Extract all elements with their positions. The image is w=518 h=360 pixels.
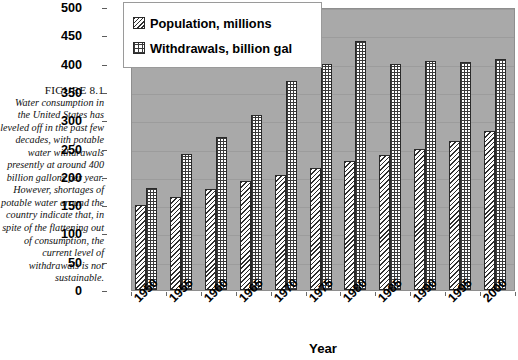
bar-withdrawals[interactable] — [460, 62, 471, 290]
x-axis-tick-mark — [445, 292, 446, 296]
y-axis-tick-label: 150 — [36, 200, 82, 213]
y-axis-tick-label: 200 — [36, 172, 82, 185]
x-axis-tick-mark — [306, 292, 307, 296]
y-axis-tick-mark — [102, 8, 107, 9]
bar-group — [446, 9, 481, 290]
y-axis-tick-label: 100 — [36, 228, 82, 241]
bar-withdrawals[interactable] — [146, 188, 157, 290]
y-axis-tick-mark — [102, 121, 107, 122]
bar-group — [411, 9, 446, 290]
bar-population[interactable] — [135, 205, 146, 290]
x-axis-labels: 1950195519601965197019751980198519901995… — [131, 292, 515, 338]
bar-population[interactable] — [414, 149, 425, 291]
bar-population[interactable] — [379, 155, 390, 290]
bar-group — [481, 9, 515, 290]
y-axis-tick-mark — [102, 93, 107, 94]
x-axis-tick-mark — [131, 292, 132, 296]
bar-withdrawals[interactable] — [495, 59, 506, 290]
y-axis-tick-label: 400 — [36, 58, 82, 71]
x-axis-tick-mark — [410, 292, 411, 296]
legend-swatch-withdrawals-icon — [133, 42, 145, 54]
x-axis-tick-mark — [271, 292, 272, 296]
legend-label-population: Population, millions — [150, 16, 272, 31]
bar-withdrawals[interactable] — [251, 115, 262, 290]
bar-population[interactable] — [449, 141, 460, 290]
bar-withdrawals[interactable] — [321, 64, 332, 290]
bar-withdrawals[interactable] — [390, 64, 401, 290]
x-axis-tick-mark — [375, 292, 376, 296]
bar-withdrawals[interactable] — [181, 154, 192, 290]
bar-population[interactable] — [240, 181, 251, 290]
bar-withdrawals[interactable] — [355, 41, 366, 290]
y-axis-tick-label: 50 — [36, 256, 82, 269]
legend-item-withdrawals[interactable]: Withdrawals, billion gal — [133, 36, 309, 60]
x-axis-tick-mark — [201, 292, 202, 296]
legend-label-withdrawals: Withdrawals, billion gal — [150, 41, 292, 56]
y-axis-tick-mark — [102, 65, 107, 66]
bar-population[interactable] — [205, 189, 216, 290]
y-axis-tick-label: 350 — [36, 87, 82, 100]
bar-chart: 050100150200250300350400450500 195019551… — [108, 0, 518, 360]
y-axis-tick-label: 0 — [36, 285, 82, 298]
x-axis-tick-mark — [480, 292, 481, 296]
y-axis-tick-label: 300 — [36, 115, 82, 128]
y-axis-tick-mark — [102, 291, 107, 292]
y-axis-tick-label: 450 — [36, 30, 82, 43]
bar-population[interactable] — [310, 168, 321, 290]
legend-item-population[interactable]: Population, millions — [133, 11, 309, 35]
bar-withdrawals[interactable] — [286, 81, 297, 290]
bar-population[interactable] — [484, 131, 495, 290]
x-axis-title: Year — [131, 341, 515, 356]
bar-population[interactable] — [170, 197, 181, 290]
y-axis-tick-mark — [102, 150, 107, 151]
y-axis-tick-mark — [102, 178, 107, 179]
y-axis-tick-mark — [102, 234, 107, 235]
x-axis-tick-mark — [236, 292, 237, 296]
y-axis-tick-label: 250 — [36, 143, 82, 156]
x-axis-tick-mark — [166, 292, 167, 296]
bar-group — [376, 9, 411, 290]
bar-group — [341, 9, 376, 290]
bar-withdrawals[interactable] — [425, 61, 436, 290]
y-axis-tick-mark — [102, 263, 107, 264]
figure-panel: FIGURE 8.1 Water consumption in the Unit… — [0, 0, 518, 360]
bar-population[interactable] — [275, 175, 286, 290]
y-axis-tick-label: 500 — [36, 2, 82, 15]
x-axis-tick-mark — [340, 292, 341, 296]
bar-population[interactable] — [344, 161, 355, 290]
y-axis-tick-mark — [102, 206, 107, 207]
x-axis-tick-mark — [515, 292, 516, 296]
bar-withdrawals[interactable] — [216, 137, 227, 290]
y-axis-tick-mark — [102, 36, 107, 37]
legend-swatch-population-icon — [133, 17, 145, 29]
chart-legend: Population, millions Withdrawals, billio… — [123, 2, 322, 68]
